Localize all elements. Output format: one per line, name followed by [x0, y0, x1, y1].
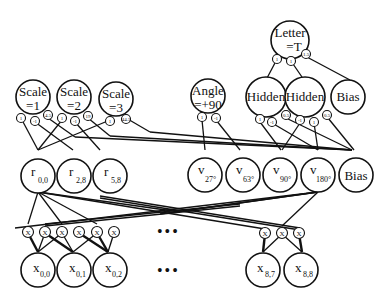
svg-text:x: x: [33, 260, 40, 275]
svg-text:5,8: 5,8: [111, 176, 121, 185]
svg-text:Scale: Scale: [60, 84, 88, 99]
svg-text:0,0: 0,0: [38, 176, 48, 185]
svg-text:Bias: Bias: [344, 168, 367, 183]
input-node-8-8: x 8,8: [284, 253, 318, 287]
svg-text:Scale: Scale: [19, 84, 47, 99]
svg-text:180°: 180°: [316, 175, 331, 184]
input-node-8-7: x 8,7: [246, 253, 280, 287]
svg-text:=2: =2: [67, 98, 81, 113]
svg-text:-1: -1: [270, 120, 275, 125]
svg-text:4.5: 4.5: [45, 113, 52, 118]
svg-text:X: X: [296, 230, 301, 238]
svg-text:X: X: [279, 230, 284, 238]
svg-text:0,1: 0,1: [76, 270, 86, 279]
svg-text:2,8: 2,8: [76, 176, 86, 185]
svg-text:27°: 27°: [205, 175, 216, 184]
svg-text:X: X: [59, 229, 64, 237]
svg-text:-1: -1: [73, 119, 78, 124]
svg-text:X: X: [94, 229, 99, 237]
svg-text:v: v: [273, 162, 280, 177]
angle-weights: 1 -1: [198, 113, 221, 123]
svg-text:Hidden: Hidden: [286, 89, 325, 104]
product-units-right: X X X: [260, 228, 305, 239]
svg-text:Angle: Angle: [192, 83, 224, 98]
v-node-27: v 27°: [188, 158, 222, 192]
svg-text:v: v: [236, 162, 243, 177]
svg-text:x: x: [257, 260, 264, 275]
svg-text:x: x: [105, 260, 112, 275]
svg-text:Scale: Scale: [102, 86, 130, 101]
svg-text:r: r: [104, 164, 109, 179]
svg-text:=+90: =+90: [194, 97, 222, 112]
scale-1-node: Scale =1: [16, 80, 50, 114]
svg-text:X: X: [76, 229, 81, 237]
r-node-5-8: r 5,8: [93, 159, 127, 193]
v-node-63: v 63°: [226, 158, 260, 192]
svg-text:x: x: [295, 260, 302, 275]
svg-text:=3: =3: [109, 100, 123, 115]
svg-text:0.5: 0.5: [283, 113, 290, 118]
svg-text:-1: -1: [214, 116, 219, 121]
svg-text:-1: -1: [33, 119, 38, 124]
svg-text:8,7: 8,7: [265, 270, 275, 279]
v-node-180: v 180°: [301, 158, 335, 192]
angle-node: Angle =+90: [191, 79, 225, 113]
svg-text:r: r: [31, 164, 36, 179]
network-diagram: Letter =T 1 1 1.5 Hidden Hidden Bias 1 -…: [0, 0, 387, 306]
ellipsis-inputs: •••: [157, 262, 180, 279]
hidden-node-2: Hidden: [285, 77, 325, 117]
svg-text:0,0: 0,0: [40, 270, 50, 279]
input-node-0-2: x 0,2: [93, 253, 127, 287]
svg-text:=1: =1: [26, 98, 40, 113]
svg-text:X: X: [111, 229, 116, 237]
svg-text:44.5: 44.5: [122, 117, 131, 122]
svg-text:0.5: 0.5: [324, 113, 331, 118]
svg-text:Hidden: Hidden: [247, 89, 286, 104]
r-node-2-8: r 2,8: [57, 159, 91, 193]
middle-bias-node: Bias: [339, 158, 373, 192]
svg-text:90°: 90°: [280, 175, 291, 184]
scale-2-node: Scale =2: [57, 80, 91, 114]
letter-value: =T: [286, 39, 301, 54]
svg-text:r: r: [69, 164, 74, 179]
top-bias-node: Bias: [331, 80, 365, 114]
svg-text:8,8: 8,8: [303, 270, 313, 279]
svg-text:v: v: [198, 162, 205, 177]
ellipsis-product: •••: [157, 223, 180, 240]
svg-text:Bias: Bias: [336, 89, 359, 104]
svg-text:1.5: 1.5: [303, 52, 310, 57]
input-node-0-1: x 0,1: [57, 253, 91, 287]
svg-text:X: X: [262, 230, 267, 238]
hidden-node-1: Hidden: [246, 77, 286, 117]
scale-3-node: Scale =3: [99, 82, 133, 116]
svg-text:-1: -1: [298, 118, 303, 123]
input-node-0-0: x 0,0: [21, 253, 55, 287]
svg-text:63°: 63°: [243, 175, 254, 184]
svg-text:X: X: [42, 229, 47, 237]
svg-text:x: x: [69, 260, 76, 275]
letter-label: Letter: [274, 25, 306, 40]
svg-text:X: X: [25, 229, 30, 237]
svg-text:19: 19: [86, 114, 92, 119]
v-node-90: v 90°: [263, 158, 297, 192]
product-units-left: X X X X X X: [23, 227, 120, 238]
r-node-0-0: r 0,0: [21, 159, 55, 193]
svg-text:0,2: 0,2: [112, 270, 122, 279]
